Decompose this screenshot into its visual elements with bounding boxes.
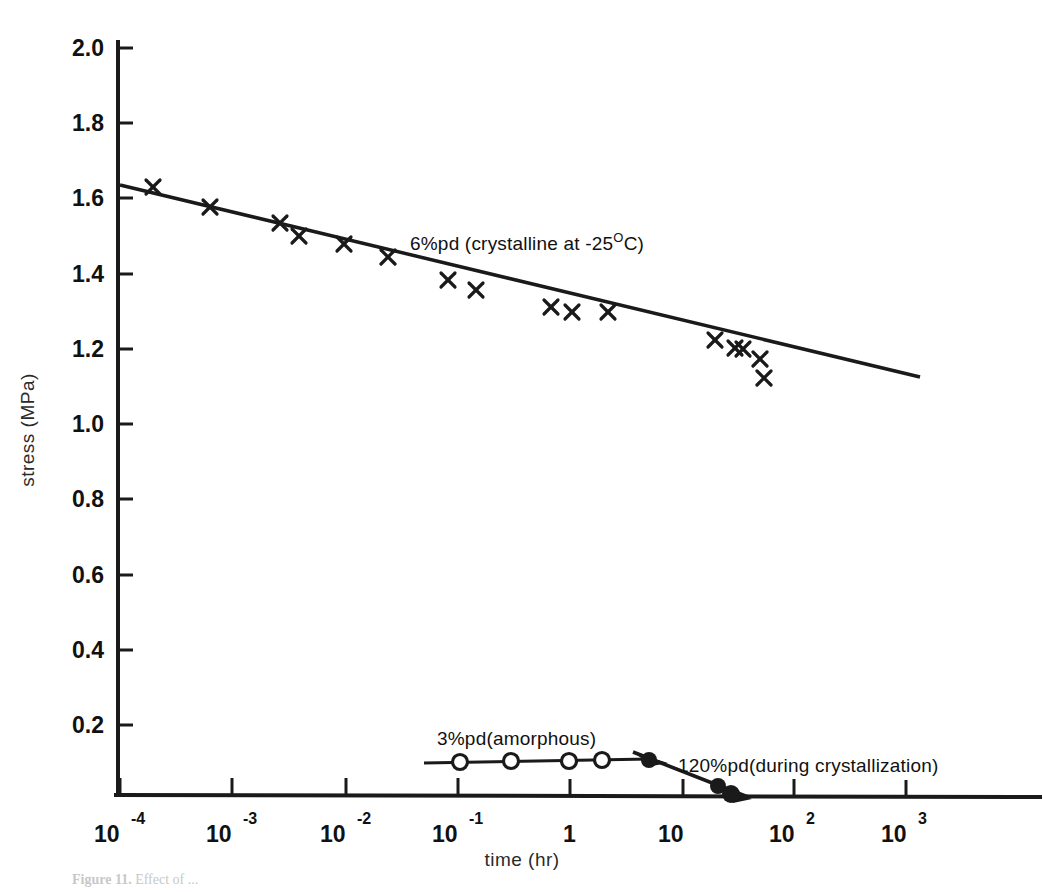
open-circle-marker bbox=[595, 753, 610, 768]
y-tick-label-1-0: 1.0 bbox=[72, 411, 104, 437]
y-axis-tick-labels: 2.0 1.8 1.6 1.4 1.2 1.0 0.8 0.6 0.4 0.2 bbox=[72, 35, 104, 738]
annot-crystalline-suffix: C) bbox=[624, 233, 644, 254]
x-axis-title: time (hr) bbox=[484, 849, 559, 870]
y-axis-title: stress (MPa) bbox=[17, 373, 38, 487]
filled-circle-marker bbox=[641, 752, 657, 768]
x-tick-label-1e-2: 10 bbox=[320, 821, 346, 847]
x-marker bbox=[757, 371, 771, 385]
x-marker bbox=[469, 283, 483, 297]
x-tick-label-1e3: 10 bbox=[881, 821, 907, 847]
y-tick-label-1-4: 1.4 bbox=[72, 261, 104, 287]
y-tick-label-0-6: 0.6 bbox=[72, 562, 104, 588]
y-tick-label-2-0: 2.0 bbox=[72, 35, 104, 61]
series-6pd-crystalline bbox=[120, 180, 920, 385]
x-tick-label-1e1: 10 bbox=[658, 821, 684, 847]
x-tick-label-1e-4: 10 bbox=[94, 821, 120, 847]
filled-circle-marker bbox=[722, 785, 740, 803]
x-tick-exp-1e2: 2 bbox=[806, 810, 815, 827]
x-marker bbox=[753, 352, 767, 366]
open-circle-marker bbox=[453, 755, 468, 770]
y-tick-label-1-6: 1.6 bbox=[72, 185, 104, 211]
x-marker bbox=[292, 229, 306, 243]
x-tick-exp-1e3: 3 bbox=[918, 810, 927, 827]
figure-container: 2.0 1.8 1.6 1.4 1.2 1.0 0.8 0.6 0.4 0.2 … bbox=[0, 0, 1043, 892]
annot-crystalline: 6%pd (crystalline at -25OC) bbox=[410, 230, 644, 254]
x-marker bbox=[565, 305, 579, 319]
y-tick-label-0-2: 0.2 bbox=[72, 712, 104, 738]
x-tick-exp-1e-4: -4 bbox=[131, 810, 145, 827]
annot-crystalline-text: 6%pd (crystalline at -25 bbox=[410, 233, 613, 254]
x-tick-exp-1e-3: -3 bbox=[243, 810, 257, 827]
y-tick-label-0-8: 0.8 bbox=[72, 486, 104, 512]
y-tick-label-1-8: 1.8 bbox=[72, 110, 104, 136]
y-tick-label-1-2: 1.2 bbox=[72, 336, 104, 362]
x-tick-label-1: 1 bbox=[563, 821, 576, 847]
x-marker bbox=[441, 273, 455, 287]
x-tick-label-1e-3: 10 bbox=[206, 821, 232, 847]
figure-caption: Figure 11. Effect of ... bbox=[72, 872, 972, 892]
figure-caption-text: Effect of ... bbox=[135, 872, 198, 887]
x-marker bbox=[381, 250, 395, 264]
x-marker bbox=[544, 300, 558, 314]
x-tick-exp-1e-2: -2 bbox=[357, 810, 371, 827]
y-tick-label-0-4: 0.4 bbox=[72, 637, 104, 663]
y-axis-ticks bbox=[118, 48, 133, 725]
x-tick-label-1e-1: 10 bbox=[432, 821, 458, 847]
figure-caption-prefix: Figure 11. bbox=[72, 872, 132, 887]
series-3pd-amorphous bbox=[424, 753, 650, 770]
annot-crystalline-degree: O bbox=[613, 230, 623, 245]
series-6pd-fit-line bbox=[120, 185, 920, 377]
annot-amorphous: 3%pd(amorphous) bbox=[437, 728, 596, 749]
axes-group bbox=[116, 42, 1040, 797]
chart-canvas: 2.0 1.8 1.6 1.4 1.2 1.0 0.8 0.6 0.4 0.2 … bbox=[0, 0, 1043, 892]
x-axis-tick-labels: 10 -4 10 -3 10 -2 10 -1 1 10 10 2 10 3 bbox=[94, 810, 927, 847]
x-tick-exp-1e-1: -1 bbox=[469, 810, 483, 827]
x-axis-line bbox=[116, 795, 1040, 797]
x-marker bbox=[708, 333, 722, 347]
annot-crystallization: 120%pd(during crystallization) bbox=[678, 755, 939, 776]
series-6pd-markers bbox=[146, 180, 771, 385]
x-tick-label-1e2: 10 bbox=[769, 821, 795, 847]
x-marker bbox=[601, 305, 615, 319]
open-circle-marker bbox=[504, 754, 519, 769]
open-circle-marker bbox=[562, 754, 577, 769]
